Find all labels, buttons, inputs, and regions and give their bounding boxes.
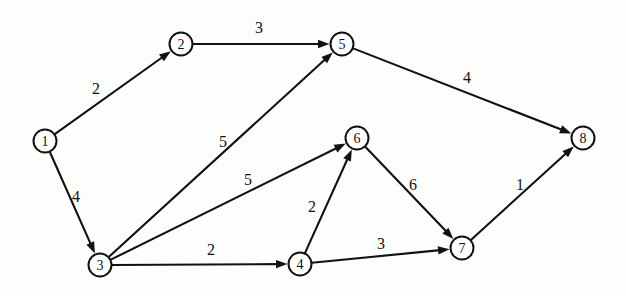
edge-weight-2-5: 3: [255, 19, 263, 36]
graph-node-6[interactable]: 6: [346, 127, 369, 150]
edge-5-to-8: [353, 48, 571, 133]
graph-node-2[interactable]: 2: [170, 33, 193, 56]
graph-diagram-canvas: 12345678 24355223461: [0, 0, 626, 296]
edge-weight-4-6: 2: [308, 198, 316, 215]
node-label-1: 1: [42, 134, 49, 149]
arrowhead-icon: [276, 260, 288, 268]
edge-3-to-4: [112, 260, 288, 268]
node-label-3: 3: [97, 258, 104, 273]
node-label-5: 5: [339, 37, 346, 52]
edge-weight-4-7: 3: [377, 235, 385, 252]
graph-node-3[interactable]: 3: [89, 254, 112, 277]
graph-node-4[interactable]: 4: [289, 253, 312, 276]
edge-weight-1-3: 4: [72, 188, 80, 205]
arrowhead-icon: [86, 241, 95, 253]
arrowhead-icon: [334, 144, 346, 153]
node-label-7: 7: [459, 241, 466, 256]
edge-weight-5-8: 4: [463, 69, 471, 86]
edge-weight-6-7: 6: [409, 176, 417, 193]
node-label-6: 6: [354, 131, 361, 146]
arrowhead-icon: [159, 51, 171, 61]
arrowhead-icon: [318, 40, 330, 48]
graph-node-5[interactable]: 5: [331, 33, 354, 56]
node-label-8: 8: [580, 131, 587, 146]
edge-3-to-5: [109, 52, 333, 256]
arrowhead-icon: [438, 246, 450, 254]
node-label-4: 4: [297, 257, 304, 272]
edge-1-to-2: [55, 51, 171, 134]
arrowhead-icon: [559, 125, 571, 133]
arrowhead-icon: [343, 149, 352, 161]
graph-svg: 12345678 24355223461: [0, 0, 626, 296]
edge-weight-3-4: 2: [207, 241, 215, 258]
node-label-2: 2: [178, 37, 185, 52]
edge-weight-7-8: 1: [516, 176, 524, 193]
edge-weight-1-2: 2: [92, 80, 100, 97]
edge-7-to-8: [471, 146, 574, 240]
edge-6-to-7: [365, 147, 453, 239]
edges-layer: [50, 40, 574, 269]
edge-weight-3-6: 5: [244, 171, 252, 188]
edge-weight-3-5: 5: [219, 133, 227, 150]
edge-weights-layer: 24355223461: [72, 19, 524, 258]
edge-2-to-5: [193, 40, 330, 48]
graph-node-7[interactable]: 7: [451, 237, 474, 260]
graph-node-8[interactable]: 8: [572, 127, 595, 150]
graph-node-1[interactable]: 1: [34, 130, 57, 153]
